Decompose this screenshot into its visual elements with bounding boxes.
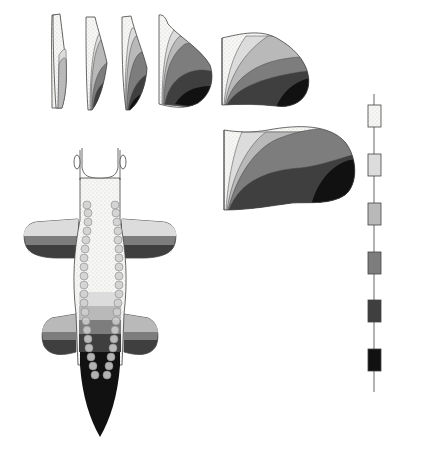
stage-19-limb-bud: [115, 10, 160, 120]
hox-diagram: [0, 0, 426, 462]
stage-24-limb-bud: [215, 25, 320, 115]
stage-26-limb-bud: [218, 120, 370, 215]
gene-box-d8: [368, 105, 381, 127]
stage-21-limb-bud: [155, 10, 220, 110]
gene-box-d11: [368, 252, 381, 274]
gene-box-d9: [368, 154, 381, 176]
embryo-body: [24, 148, 176, 437]
stage-17-limb-bud: [80, 10, 120, 120]
gene-box-d10: [368, 203, 381, 225]
gene-box-d13: [368, 349, 381, 371]
hoxd-cluster: [368, 94, 381, 392]
gene-box-d12: [368, 300, 381, 322]
